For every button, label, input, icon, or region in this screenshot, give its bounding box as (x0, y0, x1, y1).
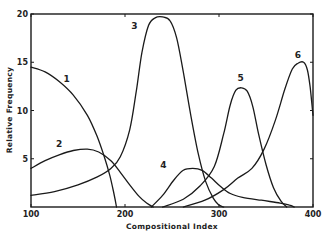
curve-label-5: 5 (237, 73, 243, 83)
curves-group (31, 17, 313, 207)
line-chart: 123456 5101520 100200300400 Compositiona… (0, 0, 326, 236)
y-axis-title: Relative Frequency (5, 67, 14, 154)
curve-label-2: 2 (56, 139, 62, 149)
x-tick-label: 400 (305, 210, 322, 219)
x-tick-label: 300 (211, 210, 228, 219)
y-tick-label: 15 (17, 58, 29, 67)
curve-label-3: 3 (131, 21, 137, 31)
curve-label-4: 4 (160, 160, 166, 170)
curve-4 (151, 168, 294, 207)
y-tick-label: 5 (22, 155, 28, 164)
curve-label-6: 6 (295, 50, 301, 60)
x-axis-title: Compositional Index (126, 222, 218, 231)
y-tick-label: 10 (17, 107, 29, 116)
y-tick-label: 20 (17, 10, 29, 19)
curve-3 (31, 17, 224, 207)
curve-6 (183, 62, 313, 207)
curve-label-1: 1 (64, 74, 70, 84)
x-tick-label: 200 (117, 210, 134, 219)
curve-2 (31, 149, 153, 207)
x-tick-label: 100 (23, 210, 40, 219)
